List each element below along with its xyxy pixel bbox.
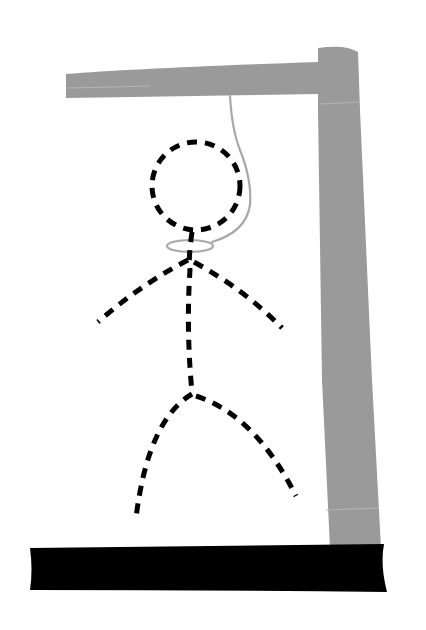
gallows-base — [30, 544, 387, 592]
hangman-illustration — [0, 0, 426, 630]
hangman-scene — [0, 0, 426, 630]
